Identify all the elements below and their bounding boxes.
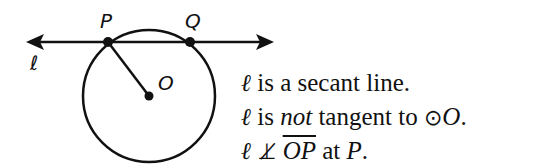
emphasis-not: not [280, 103, 312, 130]
segment-op: OP [283, 137, 316, 164]
label-line-l: ℓ [29, 51, 38, 75]
line-symbol: ℓ [241, 103, 251, 131]
line-symbol: ℓ [241, 137, 251, 165]
line-symbol: ℓ [241, 69, 251, 97]
label-p: P [100, 9, 113, 33]
period: . [362, 137, 368, 164]
period: . [460, 103, 466, 130]
label-o: O [158, 71, 174, 95]
point-p [103, 37, 113, 47]
statement-text: is [251, 103, 280, 130]
statement-text: at [316, 137, 347, 164]
statement-text: tangent to [312, 103, 424, 130]
point-q [185, 37, 195, 47]
secant-diagram: P Q O ℓ [0, 0, 280, 165]
statement-not-tangent: ℓ is not tangent to ⊙O. [241, 104, 467, 129]
point-o [145, 92, 154, 101]
statement-text: is a secant line. [251, 69, 410, 96]
statement-not-perpendicular: ℓ ⊥̸ OP at P. [241, 138, 368, 163]
not-perpendicular-icon: ⊥̸ [257, 139, 276, 164]
circle-name: O [442, 103, 460, 130]
circle-symbol-icon: ⊙ [424, 105, 442, 130]
statement-secant: ℓ is a secant line. [241, 70, 410, 95]
point-name: P [347, 137, 362, 164]
label-q: Q [185, 9, 201, 33]
radius-op [108, 42, 149, 96]
